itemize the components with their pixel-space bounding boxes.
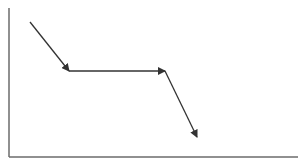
- diagram-svg: [0, 0, 306, 166]
- arrow-segments: [30, 22, 197, 137]
- arrow-segment-1: [30, 22, 69, 71]
- arrow-segment-3: [165, 71, 197, 137]
- diagram-canvas: [0, 0, 306, 166]
